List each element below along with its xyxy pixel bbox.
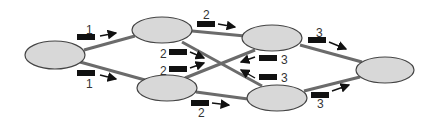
edge-label: 3 — [281, 54, 288, 66]
arrow-right-icon — [212, 103, 229, 105]
packet-icon — [169, 66, 187, 72]
diagram-canvas — [0, 0, 436, 122]
arrow-right-icon — [190, 63, 204, 68]
packet-icon — [259, 55, 277, 61]
edge-label: 1 — [86, 78, 93, 90]
node-source — [25, 41, 85, 69]
node-sink — [356, 57, 414, 83]
arrow-right-icon — [329, 42, 346, 49]
edge-label: 2 — [203, 9, 210, 21]
node-top-right-middle — [242, 25, 302, 51]
edge-label: 3 — [281, 72, 288, 84]
edge-topmid-toprm — [192, 31, 245, 36]
edge-botrm-sink — [304, 77, 360, 91]
node-bottom-right-middle — [247, 85, 307, 111]
packet-icon — [77, 70, 95, 76]
network-diagram: 1 1 2 2 2 2 3 3 3 3 — [0, 0, 436, 122]
arrow-right-icon — [100, 33, 116, 36]
edge-label: 3 — [317, 98, 324, 110]
edge-label: 2 — [160, 65, 167, 77]
edge-label: 2 — [198, 107, 205, 119]
arrow-right-icon — [218, 24, 235, 27]
edge-toprm-sink — [300, 45, 362, 62]
edge-label: 3 — [316, 27, 323, 39]
node-top-middle — [132, 17, 192, 43]
arrow-left-icon — [241, 57, 255, 62]
node-bottom-middle — [137, 75, 197, 101]
edge-label: 2 — [160, 48, 167, 60]
edge-botmid-botrm — [196, 92, 248, 99]
arrow-right-icon — [100, 75, 116, 79]
packet-icon — [169, 49, 187, 55]
arrow-right-icon — [332, 85, 349, 91]
packet-icon — [259, 74, 277, 80]
edge-label: 1 — [86, 24, 93, 36]
